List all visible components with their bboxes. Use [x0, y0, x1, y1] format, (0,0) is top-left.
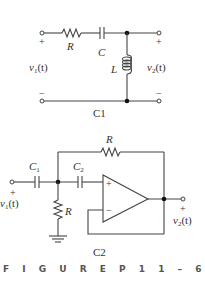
capacitor-c2: [78, 176, 82, 188]
circuit-label-c2: C2: [93, 246, 106, 258]
input-terminal-bottom: [40, 99, 44, 103]
capacitor-c: [100, 27, 104, 39]
input-terminal-top: [40, 31, 44, 35]
capacitor-c1: [35, 176, 39, 188]
junction-dot: [125, 99, 130, 104]
output-junction-dot: [162, 197, 167, 202]
inductor-label: L: [110, 63, 117, 75]
input-minus-sign: −: [39, 88, 45, 99]
capacitor-c1-label: C1: [29, 160, 40, 174]
output-terminal-top: [157, 31, 161, 35]
output-plus-sign: +: [156, 36, 162, 47]
input-plus-sign: +: [39, 36, 45, 47]
capacitor-label: C: [98, 46, 106, 58]
inductor-l: [123, 55, 132, 74]
capacitor-c2-label: C2: [73, 160, 84, 174]
resistor-r: [62, 29, 81, 37]
shunt-resistor-label: R: [64, 205, 72, 217]
output-voltage-label: v2(t): [173, 214, 192, 228]
output-minus-sign: −: [156, 88, 162, 99]
output-terminal-bottom: [157, 99, 161, 103]
figure-caption: F I G U R E P 1 1 – 6 5: [3, 264, 205, 274]
input-terminal: [10, 180, 14, 184]
output-terminal: [181, 197, 185, 201]
feedback-resistor: [101, 148, 120, 156]
shunt-resistor: [54, 200, 62, 219]
ground-icon: [49, 236, 67, 242]
opamp-plus-input: +: [106, 178, 112, 189]
input-voltage-label: v1(t): [0, 197, 19, 211]
input-voltage-label: v1(t): [29, 61, 48, 75]
opamp-minus-input: −: [106, 205, 112, 216]
circuit-figure: + − + − R C L v1(t) v2(t) C1 R: [0, 0, 205, 284]
resistor-label: R: [66, 40, 74, 52]
circuit-c1: + − + − R C L v1(t) v2(t) C1: [29, 27, 166, 119]
feedback-resistor-label: R: [105, 133, 113, 145]
circuit-label-c1: C1: [93, 107, 106, 119]
output-voltage-label: v2(t): [147, 61, 166, 75]
circuit-c2: R + −: [0, 133, 192, 258]
output-plus-sign: +: [180, 203, 186, 214]
